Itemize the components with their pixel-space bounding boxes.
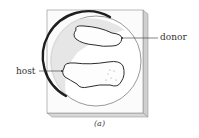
host-label: host: [16, 66, 35, 76]
plate-bottom-edge: [47, 113, 148, 117]
plate-right-edge: [143, 10, 148, 117]
host-leader-dot: [61, 70, 63, 72]
donor-label: donor: [160, 32, 187, 42]
figure-caption: (a): [0, 119, 199, 128]
donor-leader-dot: [121, 37, 123, 39]
